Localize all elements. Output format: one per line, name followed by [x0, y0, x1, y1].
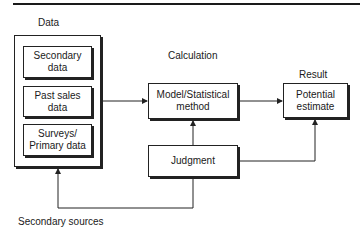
surveys-primary-data-box: Surveys/ Primary data [23, 124, 92, 156]
judgment-label: Judgment [171, 155, 215, 167]
secondary-data-line-2: data [34, 62, 82, 74]
secondary-data-box: Secondary data [23, 46, 92, 78]
potential-estimate-box: Potential estimate [283, 83, 348, 118]
secondary-data-line-1: Secondary [34, 50, 82, 62]
model-line-1: Model/Statistical [157, 89, 230, 101]
surveys-line-2: Primary data [29, 140, 86, 152]
potential-line-1: Potential [296, 89, 335, 101]
secondary-sources-label: Secondary sources [18, 216, 104, 228]
surveys-line-1: Surveys/ [29, 128, 86, 140]
model-line-2: method [157, 101, 230, 113]
judgment-box: Judgment [148, 145, 238, 177]
past-sales-line-1: Past sales [34, 90, 80, 102]
past-sales-line-2: data [34, 102, 80, 114]
potential-line-2: estimate [296, 101, 335, 113]
past-sales-data-box: Past sales data [23, 86, 92, 117]
model-statistical-method-box: Model/Statistical method [148, 83, 238, 119]
